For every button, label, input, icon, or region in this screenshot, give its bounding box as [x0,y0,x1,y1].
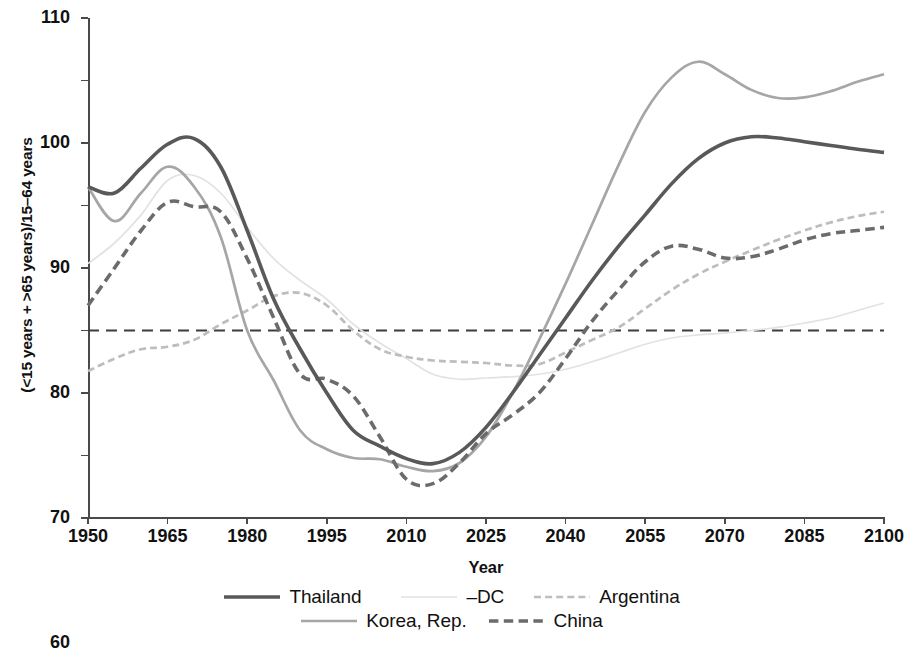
y-tick-mark: 80 [81,205,88,207]
y-tick-label: 80 [50,382,70,403]
x-axis-title: Year [88,558,884,577]
legend-swatch-argentina-icon [534,588,590,606]
x-tick-label: 2010 [386,526,426,547]
legend-item-korea[interactable]: Korea, Rep. [301,610,466,632]
legend-label-korea: Korea, Rep. [366,610,466,632]
y-tick-mark: 40 [81,455,88,457]
series-lines [88,18,884,518]
x-tick-label: 1980 [227,526,267,547]
x-tick-label: 2100 [864,526,904,547]
legend-swatch-thailand-icon [224,588,280,606]
x-tick-mark [326,517,328,524]
legend-swatch-korea-icon [301,612,357,630]
legend-label-argentina: Argentina [599,586,679,608]
x-tick-label: 2055 [625,526,665,547]
x-tick-mark [246,517,248,524]
x-tick-mark [644,517,646,524]
x-tick-mark [724,517,726,524]
x-tick-label: 1950 [68,526,108,547]
legend-item-thailand[interactable]: Thailand [224,586,361,608]
y-tick-mark: 50 [81,392,88,394]
x-tick-label: 2085 [784,526,824,547]
x-tick-mark [485,517,487,524]
x-tick-mark [406,517,408,524]
y-tick-mark: 90 [81,142,88,144]
x-tick-mark [87,517,89,524]
x-tick-mark [883,517,885,524]
chart-legend: Thailand–DCArgentinaKorea, Rep.China [0,586,904,632]
y-tick-label: 100 [40,132,70,153]
x-tick-label: 2025 [466,526,506,547]
legend-label-dc: –DC [466,586,504,608]
series-line [88,62,884,472]
x-tick-mark [167,517,169,524]
y-tick-label: 70 [50,507,70,528]
chart-figure: (<15 years + >65 years)/15–64 years 3040… [0,0,904,649]
y-tick-label: 60 [50,632,70,649]
series-line [88,212,884,371]
legend-item-china[interactable]: China [489,610,603,632]
y-tick-mark: 110 [81,17,88,19]
y-tick-mark: 60 [81,330,88,332]
x-tick-mark [804,517,806,524]
legend-swatch-dc-icon [401,588,457,606]
legend-swatch-china-icon [489,612,545,630]
series-line [88,136,884,463]
y-tick-mark: 70 [81,267,88,269]
x-tick-label: 2040 [546,526,586,547]
x-tick-label: 1995 [307,526,347,547]
legend-item-argentina[interactable]: Argentina [534,586,679,608]
y-tick-label: 110 [41,7,70,28]
plot-area: 30405060708090100110 1950196519801995201… [88,18,884,518]
y-axis-title: (<15 years + >65 years)/15–64 years [18,55,36,475]
legend-item-dc[interactable]: –DC [401,586,504,608]
x-tick-label: 2070 [705,526,745,547]
x-tick-mark [565,517,567,524]
legend-row: Thailand–DCArgentina [224,586,679,608]
legend-label-china: China [554,610,603,632]
legend-row: Korea, Rep.China [301,610,602,632]
legend-label-thailand: Thailand [289,586,361,608]
y-tick-mark: 100 [81,80,88,82]
x-tick-label: 1965 [148,526,188,547]
y-tick-label: 90 [50,257,70,278]
